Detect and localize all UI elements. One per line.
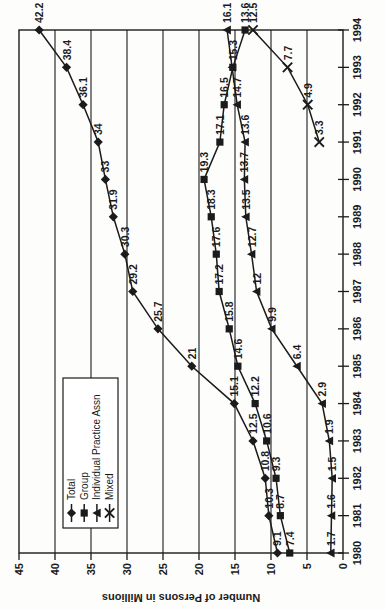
square-marker-icon	[226, 325, 233, 332]
data-label: 18.3	[205, 189, 217, 210]
square-marker-icon	[241, 26, 248, 33]
diamond-marker-icon	[248, 436, 257, 445]
legend-label: Total	[66, 479, 77, 500]
data-label: 10.6	[261, 413, 273, 434]
data-label: 12.5	[247, 413, 259, 434]
year-axis-tick-label: 1989	[351, 205, 363, 229]
square-marker-icon	[216, 138, 223, 145]
data-label: 14.6	[232, 339, 244, 360]
data-label: 21	[186, 347, 198, 359]
data-label: 7.4	[284, 531, 296, 546]
value-axis-tick-label: 5	[301, 563, 313, 569]
year-axis-tick-label: 1981	[351, 503, 363, 527]
x-marker-icon	[304, 101, 312, 109]
year-axis-tick-label: 1992	[351, 92, 363, 116]
data-label: 8.7	[274, 494, 286, 509]
value-axis-tick-label: 25	[157, 563, 169, 575]
diamond-marker-icon	[109, 212, 118, 221]
data-label: 6.4	[291, 344, 303, 359]
data-label: 9.1	[271, 531, 283, 546]
year-axis-tick-label: 1993	[351, 55, 363, 79]
data-label: 16.5	[218, 77, 230, 98]
rotated-chart-container: 0510152025303540451980198119821983198419…	[0, 0, 386, 610]
x-marker-icon	[284, 63, 292, 71]
data-label: 9.3	[270, 457, 282, 472]
diamond-marker-icon	[101, 175, 110, 184]
data-label: 10.3	[263, 488, 275, 509]
data-label: 4.9	[302, 83, 314, 98]
series-individual-practice-assn-line	[227, 30, 332, 553]
diamond-marker-icon	[264, 511, 273, 520]
data-label: 25.7	[152, 301, 164, 322]
data-label: 12	[251, 273, 263, 285]
data-label: 17.6	[210, 227, 222, 248]
data-label: 15.8	[223, 301, 235, 322]
year-axis-tick-label: 1987	[351, 279, 363, 303]
diamond-marker-icon	[261, 474, 270, 483]
data-label: 15.1	[228, 376, 240, 397]
value-axis-tick-label: 10	[265, 563, 277, 575]
square-marker-icon	[208, 213, 215, 220]
triangle-marker-icon	[222, 26, 230, 35]
value-axis-tick-label: 15	[229, 563, 241, 575]
data-label: 34	[92, 123, 104, 135]
data-label: 13.6	[239, 114, 251, 135]
square-marker-icon	[81, 509, 88, 516]
data-label: 1.7	[325, 531, 337, 546]
data-label: 9.9	[266, 307, 278, 322]
data-label: 17.1	[214, 114, 226, 135]
legend-label: Group	[79, 472, 90, 500]
data-label: 7.7	[282, 46, 294, 61]
data-label: 30.3	[119, 227, 131, 248]
legend: TotalGroupIndividual Practice AssnMixed	[63, 378, 118, 528]
year-axis-tick-label: 1984	[351, 390, 363, 415]
value-axis: 051015202530354045	[13, 553, 349, 575]
data-label: 2.9	[316, 382, 328, 397]
diamond-marker-icon	[120, 250, 129, 259]
square-marker-icon	[277, 512, 284, 519]
square-marker-icon	[200, 176, 207, 183]
data-label: 42.2	[33, 2, 45, 23]
year-axis: 1980198119821983198419851986198719881989…	[338, 17, 363, 565]
year-axis-tick-label: 1983	[351, 429, 363, 453]
data-label: 17.2	[213, 264, 225, 285]
legend-label: Mixed	[104, 473, 115, 500]
year-axis-tick-label: 1994	[351, 17, 363, 42]
x-marker-icon	[315, 138, 323, 146]
year-axis-tick-label: 1991	[351, 130, 363, 154]
value-axis-tick-label: 0	[337, 563, 349, 569]
value-axis-tick-label: 20	[193, 563, 205, 575]
value-axis-tick-label: 35	[85, 563, 97, 575]
value-axis-title: Number of Persons in Millions	[102, 592, 260, 604]
square-marker-icon	[229, 64, 236, 71]
year-axis-tick-label: 1982	[351, 466, 363, 490]
data-label: 16.1	[221, 2, 233, 23]
series-group: 7.48.79.310.612.214.615.817.217.618.319.…	[198, 2, 296, 556]
data-label: 13.7	[238, 152, 250, 173]
series-individual-practice-assn: 1.71.61.51.92.96.49.91212.713.513.713.61…	[221, 2, 338, 557]
legend-label: Individual Practice Assn	[91, 394, 102, 500]
square-marker-icon	[213, 251, 220, 258]
year-axis-tick-label: 1980	[351, 541, 363, 565]
diamond-marker-icon	[94, 137, 103, 146]
data-label: 1.5	[326, 457, 338, 472]
scanned-chart-page: 0510152025303540451980198119821983198419…	[0, 0, 386, 610]
triangle-marker-icon	[292, 362, 300, 371]
data-label: 14.7	[231, 77, 243, 98]
square-marker-icon	[221, 101, 228, 108]
value-axis-tick-label: 30	[121, 563, 133, 575]
data-label: 19.3	[198, 152, 210, 173]
value-axis-tick-label: 40	[49, 563, 61, 575]
data-label: 12.7	[246, 227, 258, 248]
square-marker-icon	[286, 549, 293, 556]
series-mixed: 3.34.97.712.5	[247, 2, 325, 146]
data-label: 12.5	[247, 2, 259, 23]
enrollment-line-chart: 0510152025303540451980198119821983198419…	[0, 0, 386, 610]
data-label: 29.2	[127, 264, 139, 285]
diamond-marker-icon	[78, 100, 87, 109]
value-axis-tick-label: 45	[13, 563, 25, 575]
diamond-marker-icon	[273, 548, 282, 557]
data-label: 33	[99, 161, 111, 173]
square-marker-icon	[263, 437, 270, 444]
year-axis-tick-label: 1988	[351, 242, 363, 266]
